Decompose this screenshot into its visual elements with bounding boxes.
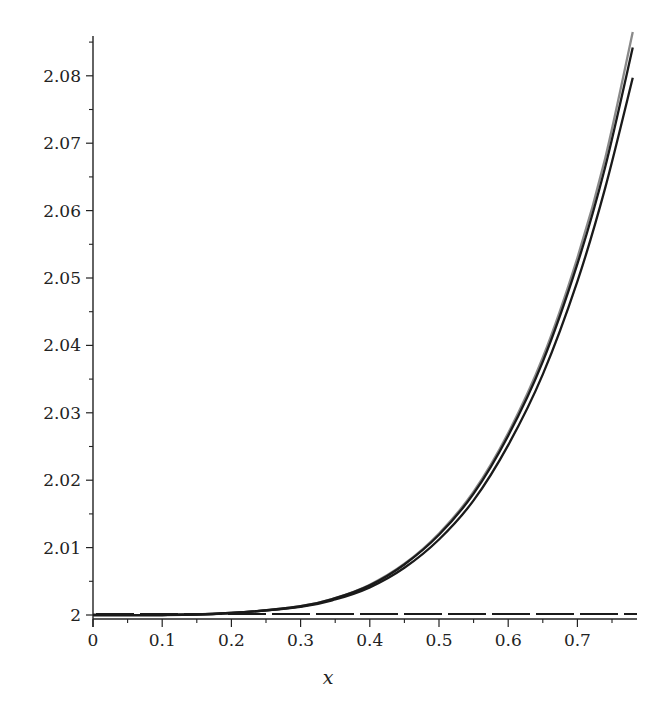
y-tick-label: 2.08 [43,66,81,86]
y-tick-label: 2 [70,605,81,625]
x-tick-label: 0.5 [425,630,452,650]
x-axis: 00.10.20.30.40.50.60.7 [88,619,637,650]
x-tick-label: 0.3 [287,630,314,650]
x-axis-title: x [323,666,334,688]
y-tick-label: 2.04 [43,335,81,355]
y-tick-label: 2.05 [43,268,81,288]
y-tick-label: 2.02 [43,470,81,490]
x-tick-label: 0.2 [218,630,245,650]
x-tick-label: 0 [88,630,99,650]
x-tick-label: 0.4 [356,630,383,650]
series-curve-black-lower [93,78,633,615]
y-tick-label: 2.03 [43,403,81,423]
plot-area [93,32,637,615]
series-curve-gray-upper [93,32,633,615]
y-tick-label: 2.01 [43,538,81,558]
chart: 22.012.022.032.042.052.062.072.08 00.10.… [0,0,671,715]
y-tick-label: 2.06 [43,201,81,221]
y-axis: 22.012.022.032.042.052.062.072.08 [43,36,93,627]
y-tick-label: 2.07 [43,133,81,153]
x-tick-label: 0.7 [564,630,591,650]
x-tick-label: 0.6 [495,630,522,650]
x-tick-label: 0.1 [149,630,176,650]
